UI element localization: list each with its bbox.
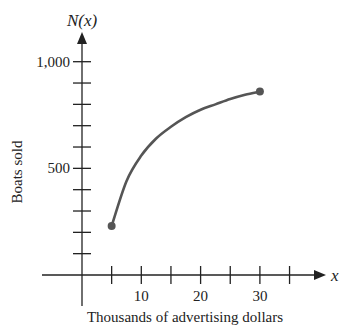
y-tick-label: 500 [48, 160, 71, 176]
data-curve [112, 92, 260, 226]
x-tick-label: 10 [134, 288, 149, 304]
x-tick-label: 30 [252, 288, 267, 304]
function-label: N(x) [66, 11, 98, 30]
x-axis-title: Thousands of advertising dollars [87, 309, 283, 325]
y-tick-label: 1,000 [36, 54, 70, 70]
x-tick-label: 20 [193, 288, 208, 304]
endpoint-dot [256, 88, 264, 96]
x-axis-symbol: x [330, 266, 339, 285]
curve-endpoints [108, 88, 264, 230]
y-tick-labels: 5001,000 [36, 54, 70, 177]
y-axis-arrow-icon [77, 32, 87, 44]
chart: 5001,000 102030 N(x) x Thousands of adve… [0, 0, 340, 326]
y-axis-title: Boats sold [9, 140, 25, 203]
x-axis-arrow-icon [314, 270, 326, 280]
x-tick-labels: 102030 [134, 288, 268, 304]
endpoint-dot [108, 222, 116, 230]
